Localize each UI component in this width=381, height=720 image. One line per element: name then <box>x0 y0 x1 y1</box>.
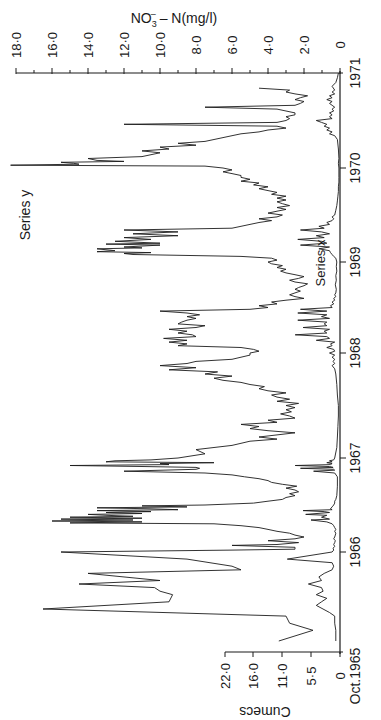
time-axis-year-label: 1967 <box>347 442 363 473</box>
time-axis-years: Oct.1965196619671968196919701971 <box>340 57 363 704</box>
series-x-label: Series x <box>313 239 328 286</box>
bottom-axis-tick-label: 16·0 <box>246 663 261 689</box>
top-axis-tick-label: 2·0 <box>297 36 312 55</box>
top-axis-no3: 18·016·014·012·010·08·06·04·02·00 <box>9 32 348 74</box>
rotated-time-series-chart: NO3– – N(mg/l) 18·016·014·012·010·08·06·… <box>0 0 381 720</box>
time-axis-year-label: Oct.1965 <box>347 647 363 704</box>
series-y-line <box>11 88 313 641</box>
bottom-axis-tick-label: 5·5 <box>304 667 319 686</box>
top-axis-tick-label: 0 <box>333 41 348 48</box>
time-axis-year-label: 1966 <box>347 536 363 567</box>
bottom-axis-cumecs: 22·016·011·05·50 <box>218 652 348 689</box>
top-axis-tick-label: 4·0 <box>261 36 276 55</box>
top-axis-tick-label: 16·0 <box>45 32 60 58</box>
top-axis-tick-label: 6·0 <box>225 36 240 55</box>
top-axis-title: NO3– – N(mg/l) <box>131 9 217 29</box>
series-x-line <box>287 73 339 641</box>
top-axis-tick-label: 12·0 <box>117 32 132 58</box>
bottom-axis-tick-label: 0 <box>333 672 348 679</box>
bottom-axis-tick-label: 11·0 <box>275 663 290 688</box>
time-axis-year-label: 1968 <box>347 337 363 368</box>
top-axis-tick-label: 10·0 <box>153 32 168 58</box>
bottom-axis-title: Cumecs <box>239 704 290 720</box>
top-axis-tick-label: 14·0 <box>81 32 96 58</box>
time-axis-year-label: 1969 <box>347 246 363 277</box>
bottom-axis-tick-label: 22·0 <box>218 663 233 689</box>
top-axis-tick-label: 8·0 <box>189 36 204 55</box>
time-axis-year-label: 1971 <box>347 57 363 88</box>
top-axis-tick-label: 18·0 <box>9 32 24 58</box>
time-axis-year-label: 1970 <box>347 152 363 183</box>
series-y-label: Series y <box>17 190 33 241</box>
